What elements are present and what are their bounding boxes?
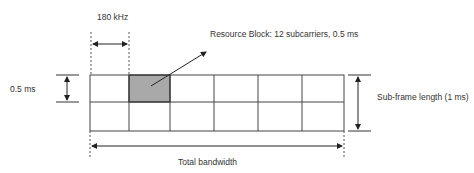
resource-block-label: Resource Block: 12 subcarriers, 0.5 ms [210, 29, 358, 39]
total-bandwidth-marker [90, 131, 344, 158]
subframe-length-label: Sub-frame length (1 ms) [377, 92, 469, 102]
subframe-length-marker [348, 75, 371, 131]
slot-duration-marker [56, 75, 79, 102]
resource-block-cell [129, 75, 170, 102]
slot-duration-label: 0.5 ms [10, 84, 36, 94]
subcarrier-width-label: 180 kHz [97, 12, 128, 22]
subcarrier-width-marker [91, 32, 129, 75]
resource-grid [90, 75, 344, 131]
lte-resource-grid-diagram: 180 kHz Resource Block: 12 subcarriers, … [0, 0, 474, 173]
total-bandwidth-label: Total bandwidth [178, 157, 237, 167]
resource-block-pointer-arrow [151, 52, 206, 86]
